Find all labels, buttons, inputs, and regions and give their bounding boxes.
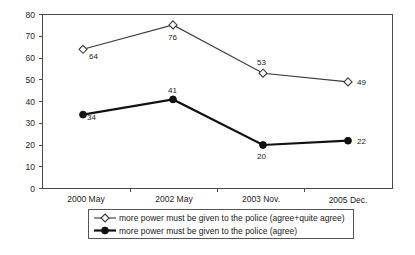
- y-tick-label-50: 50: [26, 75, 36, 85]
- y-tick-label-40: 40: [26, 97, 36, 107]
- legend-label-series-2: more power must be given to the police (…: [119, 226, 297, 236]
- series-1-data-label-0: 64: [89, 52, 98, 61]
- series-agree-plus-quite-agree: 64 76 53 49: [79, 21, 366, 87]
- x-category-label-3: 2005 Dec.: [329, 195, 368, 205]
- line-chart: 80 70 60 50 40 30 20 10 0 2000 May 2002 …: [0, 0, 415, 255]
- series-2-data-label-2: 20: [257, 152, 266, 161]
- series-1-marker-0: [79, 45, 87, 53]
- x-category-label-1: 2002 May: [155, 194, 193, 204]
- y-tick-label-70: 70: [26, 31, 36, 41]
- y-tick-label-30: 30: [26, 118, 36, 128]
- series-2-data-label-0: 34: [87, 113, 96, 122]
- y-tick-label-60: 60: [26, 53, 36, 63]
- chart-legend: more power must be given to the police (…: [89, 210, 354, 239]
- series-1-marker-3: [344, 78, 352, 86]
- y-tick-label-0: 0: [30, 184, 35, 194]
- series-2-marker-2: [260, 142, 267, 149]
- series-1-data-label-2: 53: [257, 58, 266, 67]
- y-axis-ticks: [39, 15, 43, 189]
- legend-entry-agree-plus-quite-agree[interactable]: more power must be given to the police (…: [94, 213, 345, 223]
- series-1-line: [83, 25, 348, 82]
- series-1-data-label-1: 76: [168, 33, 177, 42]
- y-tick-label-10: 10: [26, 162, 36, 172]
- series-2-marker-1: [170, 96, 177, 103]
- series-1-marker-1: [169, 21, 177, 29]
- x-axis-ticks: [130, 189, 305, 193]
- legend-label-series-1: more power must be given to the police (…: [119, 213, 345, 223]
- series-2-marker-3: [345, 137, 352, 144]
- series-2-marker-0: [80, 111, 87, 118]
- series-agree: 34 41 20 22: [80, 86, 367, 161]
- series-1-marker-2: [259, 69, 267, 77]
- y-axis-tick-labels: 80 70 60 50 40 30 20 10 0: [26, 10, 36, 194]
- legend-marker-filled-circle-icon: [102, 227, 109, 234]
- chart-canvas: 80 70 60 50 40 30 20 10 0 2000 May 2002 …: [0, 0, 415, 255]
- legend-entry-agree[interactable]: more power must be given to the police (…: [94, 226, 297, 236]
- x-axis-category-labels: 2000 May 2002 May 2003 Nov. 2005 Dec.: [67, 194, 367, 205]
- y-tick-label-20: 20: [26, 140, 36, 150]
- y-tick-label-80: 80: [26, 10, 36, 20]
- x-category-label-2: 2003 Nov.: [242, 194, 280, 204]
- x-category-label-0: 2000 May: [67, 194, 105, 204]
- series-2-data-label-1: 41: [168, 86, 177, 95]
- plot-frame: [43, 15, 393, 189]
- series-1-data-label-3: 49: [357, 78, 366, 87]
- series-2-data-label-3: 22: [357, 137, 366, 146]
- series-2-line: [83, 99, 348, 145]
